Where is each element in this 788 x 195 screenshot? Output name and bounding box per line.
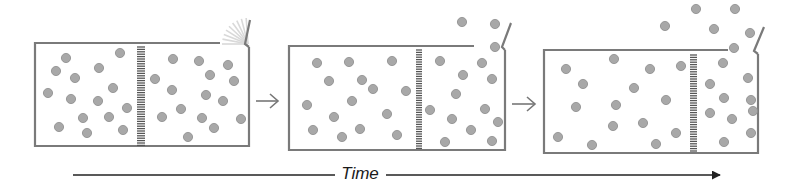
molecule-icon xyxy=(347,96,356,105)
molecule-icon xyxy=(150,74,159,83)
molecule-icon xyxy=(458,70,467,79)
molecule-icon xyxy=(108,83,117,92)
molecule-icon xyxy=(671,128,680,137)
molecule-icon xyxy=(94,63,103,72)
molecule-icon xyxy=(480,104,489,113)
molecule-icon xyxy=(43,88,52,97)
molecule-icon xyxy=(493,117,502,126)
porous-partition xyxy=(137,47,145,145)
molecule-icon xyxy=(194,56,203,65)
molecule-icon xyxy=(223,60,232,69)
molecule-icon xyxy=(435,56,444,65)
molecule-icon xyxy=(66,94,75,103)
molecule-icon xyxy=(487,74,496,83)
molecule-icon xyxy=(727,114,736,123)
molecules xyxy=(302,17,502,146)
porous-partition xyxy=(690,55,697,151)
molecule-icon xyxy=(355,124,364,133)
molecule-icon xyxy=(93,96,102,105)
molecule-icon xyxy=(709,24,718,33)
molecule-icon xyxy=(104,112,113,121)
molecule-icon xyxy=(705,79,714,88)
molecule-icon xyxy=(183,132,192,141)
molecule-icon xyxy=(337,132,346,141)
molecule-icon xyxy=(638,118,647,127)
molecule-icon xyxy=(745,28,754,37)
molecule-icon xyxy=(705,108,714,117)
molecule-icon xyxy=(490,42,499,51)
molecule-icon xyxy=(54,122,63,131)
molecules xyxy=(553,4,757,149)
molecule-icon xyxy=(176,104,185,113)
molecule-icon xyxy=(218,96,227,105)
molecule-icon xyxy=(70,73,79,82)
flap-door xyxy=(502,23,511,50)
container-panels xyxy=(35,4,764,153)
molecule-icon xyxy=(302,100,311,109)
molecule-icon xyxy=(329,112,338,121)
molecule-icon xyxy=(205,70,214,79)
molecule-icon xyxy=(197,113,206,122)
container-panel-2 xyxy=(289,17,511,150)
molecule-icon xyxy=(587,140,596,149)
transition-arrows xyxy=(256,94,535,111)
molecule-icon xyxy=(743,73,752,82)
molecule-icon xyxy=(611,100,620,109)
transition-arrow-icon xyxy=(256,94,278,108)
molecule-icon xyxy=(368,84,377,93)
transition-arrow-icon xyxy=(512,97,535,111)
molecule-icon xyxy=(51,66,60,75)
molecule-icon xyxy=(209,123,218,132)
time-axis-label: Time xyxy=(337,163,383,185)
molecule-icon xyxy=(487,136,496,145)
molecule-icon xyxy=(312,58,321,67)
container-panel-1 xyxy=(35,18,250,146)
molecule-icon xyxy=(729,43,738,52)
molecule-icon xyxy=(719,137,728,146)
molecule-icon xyxy=(167,85,176,94)
molecule-icon xyxy=(201,90,210,99)
molecule-icon xyxy=(382,109,391,118)
molecule-icon xyxy=(425,105,434,114)
molecule-icon xyxy=(746,128,755,137)
porous-partition xyxy=(416,50,422,148)
molecule-icon xyxy=(324,76,333,85)
molecule-icon xyxy=(357,75,366,84)
molecule-icon xyxy=(457,17,466,26)
molecule-icon xyxy=(118,125,127,134)
molecule-icon xyxy=(719,93,728,102)
molecule-icon xyxy=(115,48,124,57)
molecule-icon xyxy=(477,58,486,67)
molecule-icon xyxy=(82,128,91,137)
molecule-icon xyxy=(490,19,499,28)
molecule-icon xyxy=(578,79,587,88)
molecule-icon xyxy=(561,64,570,73)
effusion-diagram xyxy=(0,0,788,195)
molecule-icon xyxy=(168,54,177,63)
molecule-icon xyxy=(157,112,166,121)
flap-door xyxy=(754,27,764,54)
molecule-icon xyxy=(229,76,238,85)
molecule-icon xyxy=(676,61,685,70)
molecule-icon xyxy=(447,114,456,123)
molecule-icon xyxy=(718,58,727,67)
molecule-icon xyxy=(746,95,755,104)
molecule-icon xyxy=(553,132,562,141)
molecule-icon xyxy=(660,21,669,30)
molecule-icon xyxy=(629,83,638,92)
container-panel-3 xyxy=(544,4,764,153)
molecule-icon xyxy=(61,53,70,62)
molecule-icon xyxy=(608,121,617,130)
flap-motion-fan xyxy=(222,18,248,44)
molecule-icon xyxy=(571,102,580,111)
molecule-icon xyxy=(236,114,245,123)
molecule-icon xyxy=(466,125,475,134)
molecule-icon xyxy=(308,125,317,134)
molecule-icon xyxy=(122,103,131,112)
molecule-icon xyxy=(392,130,401,139)
molecule-icon xyxy=(651,139,660,148)
molecule-icon xyxy=(645,64,654,73)
molecule-icon xyxy=(387,56,396,65)
molecule-icon xyxy=(440,137,449,146)
molecule-icon xyxy=(344,57,353,66)
